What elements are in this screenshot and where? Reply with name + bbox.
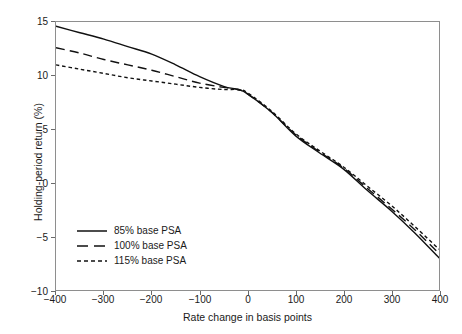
x-axis-title: Rate change in basis points [55, 311, 440, 323]
x-tick-label: −200 [140, 294, 163, 305]
x-tick-label: 100 [288, 294, 305, 305]
x-tick-label: 200 [336, 294, 353, 305]
chart-figure: Holding-period return (%) 15 10 5 0 −5 −… [0, 0, 462, 334]
legend-item: 100% base PSA [77, 238, 187, 253]
legend-label: 85% base PSA [114, 225, 181, 236]
x-tick-label: −300 [92, 294, 115, 305]
series-line-2 [56, 65, 439, 249]
y-tick-label: 15 [18, 16, 48, 27]
x-tick-label: −400 [44, 294, 67, 305]
legend-item: 85% base PSA [77, 223, 187, 238]
legend-swatch-solid [77, 226, 107, 236]
x-tick-label: 0 [245, 294, 251, 305]
legend-label: 115% base PSA [114, 255, 186, 266]
y-tick-label: 0 [18, 178, 48, 189]
x-tick-label: 300 [384, 294, 401, 305]
legend-label: 100% base PSA [114, 240, 187, 251]
x-tick-label: −100 [189, 294, 212, 305]
plot-area: 85% base PSA 100% base PSA 115% base PSA [55, 21, 440, 291]
chart-legend: 85% base PSA 100% base PSA 115% base PSA [77, 223, 187, 268]
x-tick-label: 400 [432, 294, 449, 305]
legend-item: 115% base PSA [77, 253, 187, 268]
y-tick-label: 10 [18, 70, 48, 81]
y-tick-label: −5 [18, 232, 48, 243]
legend-swatch-dotted [77, 256, 107, 266]
y-tick-label: 5 [18, 124, 48, 135]
legend-swatch-dashed [77, 241, 107, 251]
